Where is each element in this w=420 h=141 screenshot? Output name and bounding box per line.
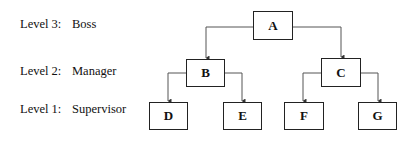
node-label: F [300,108,308,124]
node-label: C [336,65,345,81]
node-label: D [164,108,173,124]
node-label: A [268,18,277,34]
node-label: B [201,65,210,81]
edge-b-d [168,73,186,101]
node-a: A [253,11,293,40]
node-d: D [149,102,188,130]
node-label: G [372,108,382,124]
node-g: G [358,102,397,130]
node-f: F [284,102,324,130]
node-b: B [186,59,225,87]
edge-a-c [292,27,341,57]
edge-b-e [225,73,242,101]
edge-c-g [361,73,378,101]
edge-a-b [206,27,253,58]
node-c: C [321,58,361,87]
node-label: E [238,108,247,124]
node-e: E [223,102,262,130]
edge-c-f [303,73,321,101]
